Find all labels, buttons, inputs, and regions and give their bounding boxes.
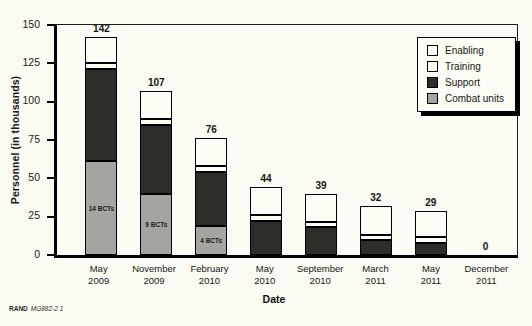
bct-count-label: 9 BCTs	[141, 195, 171, 254]
x-axis-tick-labels: May2009November2009February2010May2010Se…	[71, 263, 514, 288]
stacked-bar: 9 BCTs107	[140, 91, 172, 255]
x-tick-label: December2011	[459, 263, 514, 288]
bar-total-label: 29	[405, 198, 457, 208]
legend-row: Training	[427, 61, 504, 72]
bar-total-label: 107	[130, 78, 182, 88]
legend-label: Training	[445, 61, 481, 72]
bar-total-label: 0	[460, 242, 512, 252]
segment-training	[305, 222, 337, 227]
y-tick-mark	[47, 101, 54, 103]
y-tick-mark	[47, 254, 54, 256]
x-axis-title: Date	[54, 293, 494, 305]
segment-combat-units: 9 BCTs	[140, 194, 172, 255]
segment-enabling	[415, 211, 447, 237]
x-tick-label: May2009	[71, 263, 126, 288]
segment-training	[85, 63, 117, 69]
y-tick-label: 100	[0, 95, 40, 106]
x-tick-label: February2010	[182, 263, 237, 288]
segment-enabling	[85, 37, 117, 63]
bar-total-label: 76	[185, 125, 237, 135]
segment-training	[140, 119, 172, 125]
segment-training	[415, 237, 447, 243]
bar-slot: 32	[348, 25, 403, 255]
legend-box: EnablingTrainingSupportCombat units	[417, 37, 516, 112]
segment-combat-units: 4 BCTs	[195, 226, 227, 255]
segment-support	[85, 69, 117, 161]
legend-swatch-icon	[427, 61, 438, 72]
x-tick-label: May2010	[237, 263, 292, 288]
segment-enabling	[360, 206, 392, 235]
segment-enabling	[305, 194, 337, 222]
bar-slot: 9 BCTs107	[129, 25, 184, 255]
segment-support	[360, 240, 392, 255]
segment-enabling	[195, 138, 227, 166]
bar-total-label: 142	[75, 24, 127, 34]
y-tick-label: 75	[0, 134, 40, 145]
segment-training	[195, 166, 227, 172]
bct-count-label: 4 BCTs	[196, 227, 226, 254]
x-tick-label: May2011	[403, 263, 458, 288]
legend-row: Support	[427, 77, 504, 88]
y-axis-tick-labels: 0255075100125150	[0, 25, 43, 255]
y-tick-mark	[47, 24, 54, 26]
stacked-bar: 44	[250, 187, 282, 255]
bct-count-label: 14 BCTs	[86, 162, 116, 254]
segment-support	[195, 172, 227, 226]
stacked-bar: 29	[415, 211, 447, 255]
y-axis-tick-marks	[47, 25, 54, 255]
y-tick-label: 0	[0, 249, 40, 260]
source-brand: RAND	[9, 305, 28, 312]
legend-label: Combat units	[445, 93, 504, 104]
legend-row: Combat units	[427, 93, 504, 104]
legend-label: Support	[445, 77, 480, 88]
stacked-bar: 4 BCTs76	[195, 138, 227, 255]
bar-slot: 4 BCTs76	[184, 25, 239, 255]
segment-support	[305, 227, 337, 255]
bar-slot: 39	[294, 25, 349, 255]
legend-row: Enabling	[427, 45, 504, 56]
y-tick-label: 50	[0, 172, 40, 183]
segment-training	[250, 215, 282, 221]
segment-support	[250, 221, 282, 255]
y-tick-label: 150	[0, 19, 40, 30]
y-tick-label: 125	[0, 57, 40, 68]
segment-combat-units: 14 BCTs	[85, 161, 117, 255]
legend-swatch-icon	[427, 93, 438, 104]
legend-swatch-icon	[427, 45, 438, 56]
legend-swatch-icon	[427, 77, 438, 88]
y-tick-mark	[47, 177, 54, 179]
segment-support	[140, 125, 172, 194]
stacked-bar: 32	[360, 206, 392, 255]
bar-slot: 44	[239, 25, 294, 255]
bar-slot: 14 BCTs142	[74, 25, 129, 255]
x-tick-label: September2010	[293, 263, 348, 288]
stacked-bar: 39	[305, 194, 337, 255]
segment-enabling	[140, 91, 172, 119]
y-tick-mark	[47, 139, 54, 141]
figure-source-note: RANDMG882-2.1	[9, 305, 63, 312]
y-tick-label: 25	[0, 210, 40, 221]
stacked-bar-chart-figure: Personnel (in thousands) 025507510012515…	[0, 0, 532, 326]
stacked-bar: 14 BCTs142	[85, 37, 117, 255]
source-doc-id: MG882-2.1	[31, 305, 64, 312]
x-tick-label: March2011	[348, 263, 403, 288]
bar-total-label: 32	[350, 193, 402, 203]
legend-label: Enabling	[445, 45, 484, 56]
y-tick-mark	[47, 62, 54, 64]
bar-total-label: 39	[295, 181, 347, 191]
x-tick-label: November2009	[126, 263, 181, 288]
y-tick-mark	[47, 216, 54, 218]
segment-support	[415, 243, 447, 255]
segment-training	[360, 235, 392, 240]
segment-enabling	[250, 187, 282, 215]
bar-total-label: 44	[240, 174, 292, 184]
